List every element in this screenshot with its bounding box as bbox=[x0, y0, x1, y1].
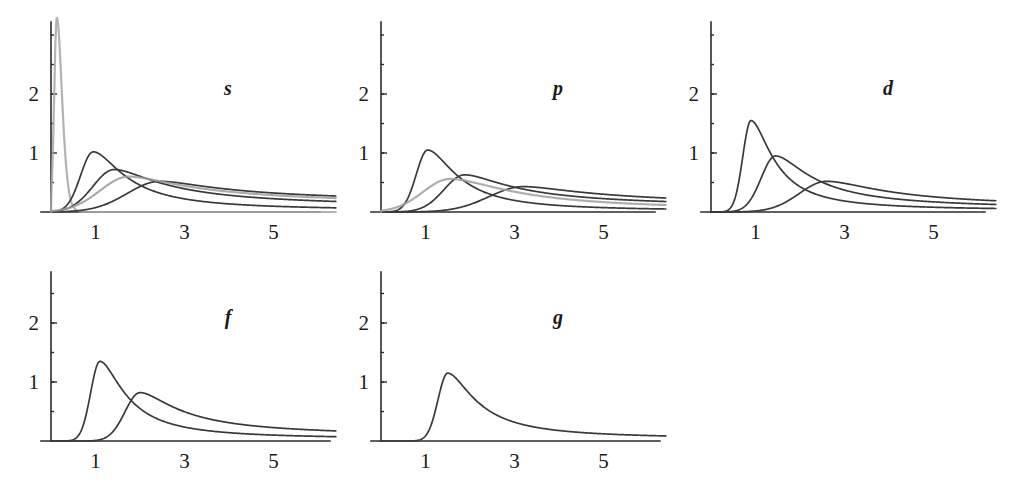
x-tick-label: 3 bbox=[179, 449, 190, 473]
curve-5f bbox=[51, 393, 336, 441]
x-tick-label: 5 bbox=[928, 220, 939, 244]
panel-s: 12135s bbox=[29, 18, 336, 244]
panel-d: 12135d bbox=[689, 22, 996, 244]
panel-label-p: p bbox=[551, 77, 563, 100]
curve-2s bbox=[51, 152, 336, 212]
panel-label-d: d bbox=[883, 77, 894, 99]
y-tick-label: 2 bbox=[689, 82, 700, 106]
x-tick-label: 3 bbox=[509, 449, 520, 473]
y-tick-label: 1 bbox=[29, 370, 40, 394]
x-tick-label: 1 bbox=[90, 449, 101, 473]
x-tick-label: 5 bbox=[598, 220, 609, 244]
x-tick-label: 3 bbox=[839, 220, 850, 244]
y-tick-label: 2 bbox=[29, 311, 40, 335]
radial-distribution-figure: 12135s12135p12135d12135f12135g bbox=[0, 0, 1012, 493]
x-tick-label: 1 bbox=[420, 220, 431, 244]
curve-1s bbox=[51, 18, 336, 212]
curve-3s bbox=[51, 170, 336, 212]
x-tick-label: 1 bbox=[420, 449, 431, 473]
x-tick-label: 3 bbox=[509, 220, 520, 244]
x-tick-label: 5 bbox=[268, 220, 279, 244]
y-tick-label: 1 bbox=[359, 370, 370, 394]
x-tick-label: 5 bbox=[268, 449, 279, 473]
panel-p: 12135p bbox=[359, 22, 666, 244]
x-tick-label: 1 bbox=[750, 220, 761, 244]
x-tick-label: 3 bbox=[179, 220, 190, 244]
panel-g: 12135g bbox=[359, 272, 666, 473]
y-tick-label: 2 bbox=[29, 82, 40, 106]
curve-5g bbox=[381, 373, 666, 441]
panel-label-f: f bbox=[225, 306, 234, 329]
y-tick-label: 1 bbox=[359, 141, 370, 165]
x-tick-label: 1 bbox=[90, 220, 101, 244]
panel-label-g: g bbox=[552, 306, 563, 329]
y-tick-label: 2 bbox=[359, 82, 370, 106]
figure-canvas: 12135s12135p12135d12135f12135g bbox=[0, 0, 1012, 493]
y-tick-label: 2 bbox=[359, 311, 370, 335]
curve-4d bbox=[711, 156, 996, 212]
panel-f: 12135f bbox=[29, 272, 336, 473]
y-tick-label: 1 bbox=[689, 141, 700, 165]
panel-label-s: s bbox=[223, 77, 232, 99]
x-tick-label: 5 bbox=[598, 449, 609, 473]
y-tick-label: 1 bbox=[29, 141, 40, 165]
